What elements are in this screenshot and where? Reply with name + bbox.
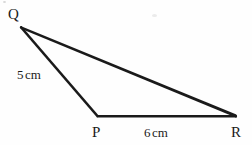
scan-artifact-speck [3, 1, 6, 3]
side-qr-line [20, 26, 236, 118]
vertex-q-point [20, 26, 22, 28]
vertex-label-r: R [231, 125, 241, 140]
side-length-label-qp: 5cm [17, 68, 41, 81]
side-length-value-pr: 6 [144, 125, 151, 140]
side-length-unit-pr: cm [152, 125, 168, 140]
side-length-label-pr: 6cm [144, 126, 168, 139]
vertex-label-q: Q [8, 7, 19, 22]
scan-artifact-speck [152, 14, 157, 17]
vertex-p-point [96, 115, 98, 117]
vertex-r-point [235, 115, 237, 117]
side-length-unit-qp: cm [25, 67, 41, 82]
vertex-label-p: P [92, 125, 100, 140]
side-pr-line [97, 115, 237, 118]
side-length-value-qp: 5 [17, 67, 24, 82]
geometry-figure-canvas: Q P R 5cm 6cm [0, 0, 252, 145]
